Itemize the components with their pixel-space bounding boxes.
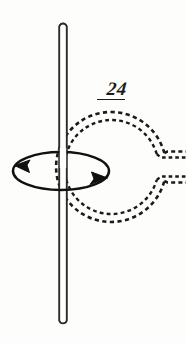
physics-figure-drawing <box>0 0 186 343</box>
coil-lead-upper <box>157 152 186 158</box>
figure-container: 24 <box>0 0 186 343</box>
coil-outer-dashed-circle <box>56 112 164 222</box>
coil-inner-dashed-circle <box>65 120 157 214</box>
vertical-rod <box>59 23 67 323</box>
field-loop-arrow-left <box>15 160 31 173</box>
rod-occlusion-mask <box>60 148 66 168</box>
figure-number-underline <box>97 99 125 100</box>
coil-lead-lower <box>157 177 186 183</box>
